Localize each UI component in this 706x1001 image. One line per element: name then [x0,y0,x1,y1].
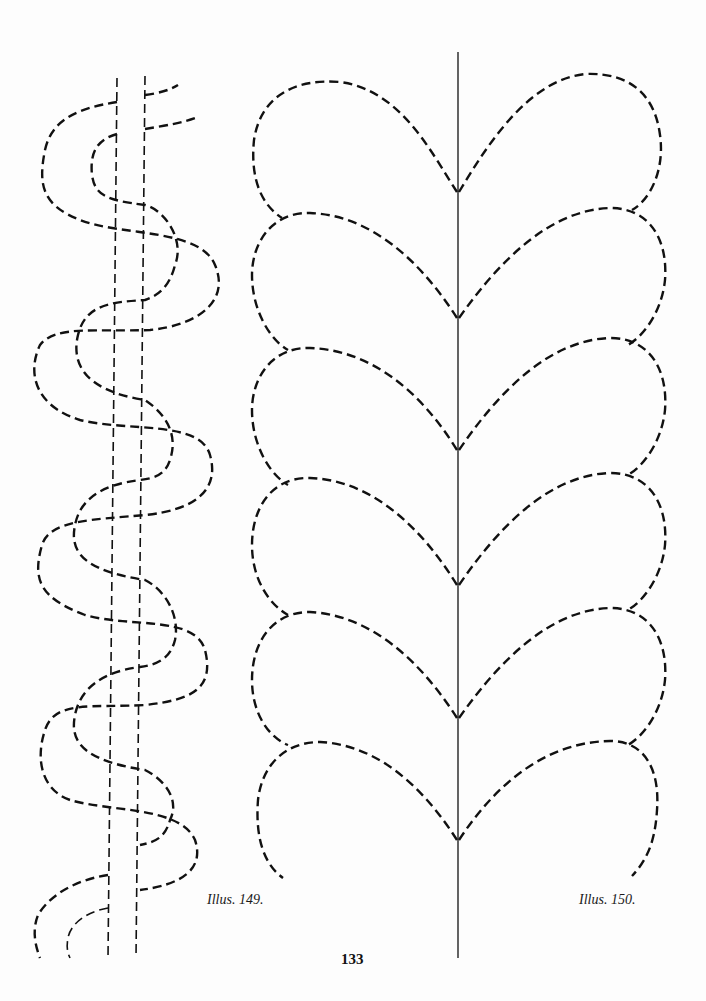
leaf-left-3 [252,348,457,485]
leaf-right-1 [459,74,661,210]
leaf-left-2 [252,213,457,350]
cable-inner-curve [74,134,178,845]
cable-right-rail [136,76,145,958]
leaf-right-4 [459,473,665,610]
cable-top-stub-2 [145,117,198,129]
leaf-left-5 [252,612,457,745]
cable-bottom-tail-inner [67,908,108,958]
leaf-right-3 [459,338,665,475]
leaf-right-6 [459,741,657,876]
caption-illus-149: Illus. 149. [207,892,263,908]
illustration-150-leaf-vine [252,52,665,958]
leaf-left-6 [257,742,457,878]
cable-outer-curve [34,102,219,890]
cable-bottom-tail [35,875,108,958]
cable-top-stub [145,85,178,95]
illustration-149-cable [34,76,219,958]
leaf-left-1 [253,82,457,218]
page-number: 133 [341,951,364,968]
leaf-right-2 [459,208,665,345]
leaf-right-5 [459,608,665,745]
book-page: Illus. 149. Illus. 150. 133 [0,0,706,1001]
leaf-left-4 [252,478,457,615]
caption-illus-150: Illus. 150. [579,892,635,908]
illustration-canvas [0,0,706,1001]
